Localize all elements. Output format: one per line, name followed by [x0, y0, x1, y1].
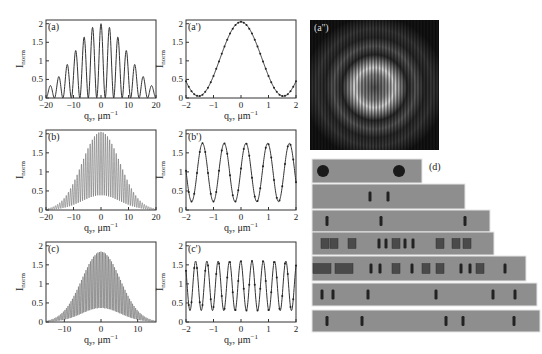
- rect-aperture: [321, 239, 329, 249]
- slit-aperture: [469, 264, 472, 274]
- slit-aperture: [445, 316, 448, 326]
- slit-aperture: [326, 316, 329, 326]
- aperture-strip-5: [312, 256, 526, 281]
- rect-aperture: [348, 239, 356, 249]
- rect-aperture: [392, 264, 400, 274]
- slit-aperture: [379, 264, 382, 274]
- rect-aperture: [422, 264, 430, 274]
- slit-aperture: [504, 264, 507, 274]
- slit-aperture: [332, 290, 335, 300]
- slit-aperture: [462, 316, 465, 326]
- slit-aperture: [514, 290, 517, 300]
- slit-aperture: [387, 192, 390, 202]
- aperture-strip-7: [312, 310, 540, 332]
- slit-aperture: [411, 264, 414, 274]
- rect-aperture: [392, 239, 400, 249]
- aperture-strip-1: [312, 159, 422, 183]
- slit-aperture: [412, 239, 415, 249]
- slit-aperture: [404, 239, 407, 249]
- slit-aperture: [369, 192, 372, 202]
- slit-aperture: [435, 290, 438, 300]
- slit-aperture: [385, 239, 388, 249]
- slit-aperture: [492, 290, 495, 300]
- aperture-strips-d: (d): [0, 0, 542, 354]
- slit-aperture: [361, 316, 364, 326]
- rect-aperture: [452, 239, 460, 249]
- panel-label-d: (d): [429, 161, 441, 173]
- slit-aperture: [513, 316, 516, 326]
- aperture-strip-4: [312, 232, 494, 255]
- aperture-strip-2: [312, 184, 465, 209]
- aperture-strip-3: [312, 210, 490, 232]
- circular-aperture: [317, 165, 329, 177]
- rect-aperture: [476, 264, 484, 274]
- rect-aperture: [436, 264, 444, 274]
- slit-aperture: [460, 264, 463, 274]
- aperture-strip-6: [312, 283, 537, 306]
- slit-aperture: [326, 216, 329, 226]
- slit-aperture: [378, 239, 381, 249]
- slit-aperture: [370, 264, 373, 274]
- rect-aperture: [436, 239, 444, 249]
- slit-aperture: [367, 290, 370, 300]
- slit-aperture: [464, 216, 467, 226]
- wide-rect-aperture: [335, 264, 353, 274]
- circular-aperture: [393, 165, 405, 177]
- slit-aperture: [380, 216, 383, 226]
- rect-aperture: [463, 239, 471, 249]
- wide-rect-aperture: [313, 264, 331, 274]
- slit-aperture: [321, 290, 324, 300]
- rect-aperture: [330, 239, 338, 249]
